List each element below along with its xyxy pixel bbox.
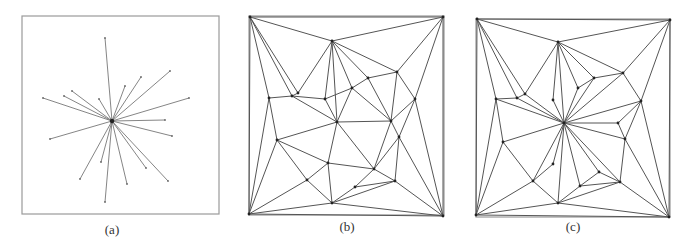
leaf-node	[63, 95, 65, 97]
star-edge	[112, 71, 170, 121]
graph-vertex	[552, 99, 555, 102]
caption-a: (a)	[105, 222, 119, 238]
graph-edge	[476, 142, 503, 215]
graph-edge	[415, 17, 443, 99]
panel-c-triangulation	[475, 18, 672, 219]
graph-vertex	[324, 98, 327, 101]
graph-edge	[352, 78, 368, 88]
leaf-node	[71, 90, 73, 92]
graph-vertex	[331, 40, 334, 43]
leaf-node	[98, 98, 100, 100]
graph-edge	[533, 181, 558, 203]
graph-edge	[374, 169, 395, 181]
graph-vertex	[297, 92, 300, 95]
leaf-node	[104, 201, 106, 203]
leaf-node	[164, 119, 166, 121]
graph-edge	[307, 180, 332, 203]
graph-edge	[332, 41, 337, 122]
graph-vertex	[532, 180, 535, 183]
graph-edge	[558, 42, 623, 73]
graph-vertex	[579, 185, 582, 188]
graph-vertex	[598, 171, 601, 174]
graph-vertex	[354, 186, 357, 189]
graph-vertex	[394, 180, 397, 183]
figure-canvas	[0, 0, 690, 243]
graph-vertex	[398, 136, 401, 139]
graph-edge	[332, 41, 397, 72]
graph-edge	[641, 20, 670, 101]
graph-edge	[564, 123, 620, 182]
graph-edge	[620, 139, 625, 182]
graph-edge	[618, 123, 625, 139]
graph-vertex	[276, 139, 279, 142]
graph-vertex	[476, 18, 479, 21]
leaf-node	[145, 167, 147, 169]
graph-vertex	[617, 122, 620, 125]
graph-edge	[533, 164, 553, 181]
graph-edge	[553, 42, 558, 100]
graph-edge	[625, 139, 669, 217]
graph-edge	[558, 186, 580, 203]
star-edge	[80, 121, 112, 179]
graph-vertex	[390, 120, 393, 123]
graph-edge	[476, 99, 496, 215]
graph-edge	[503, 142, 533, 181]
graph-edge	[374, 137, 399, 169]
panel-frame	[22, 16, 219, 214]
graph-vertex	[516, 97, 519, 100]
graph-vertex	[495, 98, 498, 101]
graph-edge	[564, 73, 623, 123]
graph-edge	[477, 19, 496, 99]
graph-vertex	[331, 202, 334, 205]
graph-edge	[250, 17, 292, 96]
star-edge	[105, 38, 112, 121]
graph-vertex	[557, 41, 560, 44]
leaf-node	[171, 135, 173, 137]
caption-b: (b)	[339, 219, 354, 235]
graph-edge	[397, 72, 415, 99]
leaf-node	[42, 97, 44, 99]
leaf-node	[169, 70, 171, 72]
graph-edge	[496, 98, 517, 99]
graph-vertex	[248, 213, 251, 216]
graph-edge	[496, 99, 503, 142]
graph-edge	[368, 78, 391, 121]
star-edge	[43, 98, 112, 121]
leaf-node	[104, 37, 106, 39]
graph-edge	[332, 41, 352, 88]
graph-edge	[307, 163, 328, 180]
graph-edge	[395, 137, 399, 181]
graph-edge	[399, 99, 415, 137]
caption-c: (c)	[566, 219, 580, 235]
graph-edge	[269, 98, 277, 140]
graph-edge	[599, 172, 620, 182]
leaf-node	[126, 183, 128, 185]
graph-edge	[249, 98, 269, 214]
graph-vertex	[552, 163, 555, 166]
star-edge	[112, 121, 168, 181]
graph-vertex	[306, 179, 309, 182]
graph-edge	[328, 163, 332, 203]
graph-edge	[250, 17, 269, 98]
graph-edge	[249, 180, 307, 214]
graph-edge	[391, 99, 415, 121]
graph-vertex	[640, 100, 643, 103]
graph-edge	[250, 17, 298, 93]
star-edge	[112, 121, 127, 184]
graph-vertex	[414, 98, 417, 101]
graph-vertex	[557, 202, 560, 205]
graph-vertex	[396, 71, 399, 74]
graph-vertex	[373, 168, 376, 171]
star-edge	[72, 91, 112, 121]
graph-edge	[391, 121, 399, 137]
graph-edge	[249, 203, 332, 214]
graph-vertex	[669, 19, 672, 22]
leaf-node	[49, 138, 51, 140]
graph-edge	[269, 96, 292, 98]
graph-edge	[578, 78, 594, 88]
graph-edge	[525, 94, 564, 123]
graph-edge	[625, 101, 641, 139]
graph-edge	[564, 78, 594, 123]
graph-edge	[337, 121, 391, 122]
graph-edge	[558, 42, 594, 78]
